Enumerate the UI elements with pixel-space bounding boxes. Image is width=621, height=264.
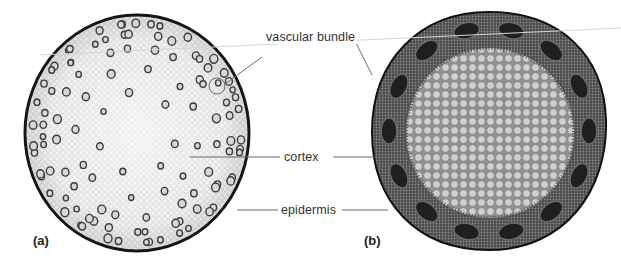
label-vascular-bundle: vascular bundle	[264, 30, 357, 44]
panel-label-b: (b)	[364, 233, 381, 248]
panel-label-a: (a)	[33, 233, 49, 248]
stem-cross-section-figure: vascular bundle cortex epidermis (a) (b)	[0, 0, 621, 264]
panel-b-cross-section	[372, 12, 606, 250]
label-cortex: cortex	[282, 150, 321, 164]
label-epidermis: epidermis	[279, 203, 338, 217]
